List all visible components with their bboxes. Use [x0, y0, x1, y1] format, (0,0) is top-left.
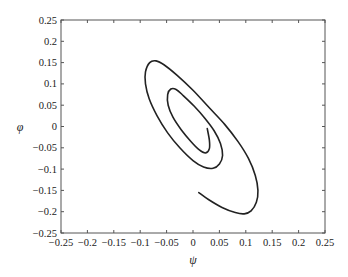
- x-tick-label: −0.25: [49, 237, 73, 248]
- x-axis-label: ψ: [189, 253, 197, 267]
- x-tick-labels: −0.25−0.2−0.15−0.1−0.0500.050.10.150.20.…: [49, 237, 334, 248]
- y-tick-labels: 0.250.20.150.10.050−0.05−0.1−0.15−0.2−0.…: [33, 15, 57, 239]
- y-tick-label: −0.25: [33, 228, 57, 239]
- y-tick-label: 0: [52, 121, 57, 132]
- y-tick-label: 0.2: [44, 36, 57, 47]
- x-tick-label: −0.05: [154, 237, 178, 248]
- y-tick-label: 0.15: [39, 57, 57, 68]
- y-tick-label: −0.1: [38, 164, 57, 175]
- y-tick-label: −0.05: [33, 142, 57, 153]
- x-tick-label: 0.1: [239, 237, 252, 248]
- x-tick-label: 0.15: [263, 237, 281, 248]
- y-tick-label: −0.15: [33, 185, 57, 196]
- x-tick-label: −0.1: [131, 237, 150, 248]
- x-tick-label: −0.2: [78, 237, 97, 248]
- y-tick-label: 0.1: [44, 78, 57, 89]
- plot-frame: [61, 20, 325, 233]
- y-tick-label: −0.2: [38, 206, 57, 217]
- plot-area: [61, 20, 325, 233]
- x-tick-label: 0.05: [210, 237, 228, 248]
- y-tick-label: 0.05: [39, 100, 57, 111]
- x-tick-label: 0.25: [316, 237, 334, 248]
- x-tick-label: −0.15: [102, 237, 126, 248]
- y-axis-label: φ: [17, 120, 24, 134]
- phase-plot: −0.25−0.2−0.15−0.1−0.0500.050.10.150.20.…: [0, 0, 348, 277]
- x-tick-label: 0: [190, 237, 195, 248]
- x-tick-label: 0.2: [292, 237, 305, 248]
- y-tick-label: 0.25: [39, 15, 57, 26]
